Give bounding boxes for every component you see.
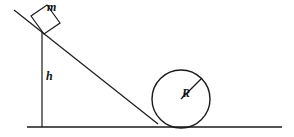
height-label: h xyxy=(46,70,53,82)
incline-line xyxy=(14,10,158,124)
diagram-svg xyxy=(0,0,294,137)
radius-label: R xyxy=(182,87,190,99)
mass-label: m xyxy=(47,1,56,13)
figure-canvas: m h R xyxy=(0,0,294,137)
